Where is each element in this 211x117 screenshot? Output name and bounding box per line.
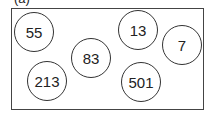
node-label: 501 bbox=[128, 74, 153, 91]
node-label: 213 bbox=[34, 73, 59, 90]
node-501: 501 bbox=[121, 62, 161, 102]
figure-caption: (a) bbox=[14, 0, 30, 6]
node-55: 55 bbox=[14, 12, 54, 52]
node-213: 213 bbox=[27, 61, 67, 101]
node-7: 7 bbox=[162, 25, 202, 65]
node-13: 13 bbox=[118, 10, 158, 50]
node-label: 55 bbox=[26, 24, 43, 41]
node-label: 83 bbox=[83, 50, 100, 67]
node-label: 13 bbox=[130, 22, 147, 39]
node-label: 7 bbox=[178, 37, 186, 54]
node-83: 83 bbox=[71, 38, 111, 78]
